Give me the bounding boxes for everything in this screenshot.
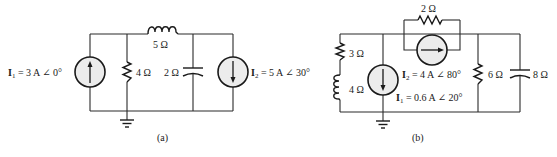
resistor-4-ohm: 4 Ω xyxy=(123,62,151,82)
circuit-diagrams: 5 Ω I1 = 3 A ∠ 0° 4 Ω 2 Ω xyxy=(0,0,557,157)
capacitor-8-ohm: 8 Ω xyxy=(510,69,548,80)
resistor-top-label: 2 Ω xyxy=(421,3,436,14)
inductor-5-ohm: 5 Ω xyxy=(148,27,178,50)
inductor-label: 5 Ω xyxy=(153,39,168,50)
caption-a: (a) xyxy=(157,132,168,144)
svg-text:I2 = 5 A ∠ 30°: I2 = 5 A ∠ 30° xyxy=(251,67,310,80)
ground-icon xyxy=(120,111,134,127)
resistor-right-label: 6 Ω xyxy=(488,69,503,80)
resistor-label: 4 Ω xyxy=(136,67,151,78)
resistor-3-ohm: 3 Ω xyxy=(336,43,364,60)
svg-text:I2 = 4 A ∠ 80°: I2 = 4 A ∠ 80° xyxy=(402,69,461,82)
current-source-i2-b: I2 = 4 A ∠ 80° xyxy=(402,35,461,82)
resistor-left-label: 3 Ω xyxy=(349,48,364,59)
current-source-i2-a: I2 = 5 A ∠ 30° xyxy=(218,57,310,87)
inductor-left-label: 4 Ω xyxy=(349,84,364,95)
current-source-i1-a: I1 = 3 A ∠ 0° xyxy=(8,57,105,87)
resistor-6-ohm: 6 Ω xyxy=(474,64,503,84)
ground-icon xyxy=(376,112,390,128)
caption-b: (b) xyxy=(412,132,424,144)
inductor-4-ohm: 4 Ω xyxy=(334,75,364,100)
svg-text:I1 = 3 A ∠ 0°: I1 = 3 A ∠ 0° xyxy=(8,67,62,80)
svg-text:I1 = 0.6 A ∠ 20°: I1 = 0.6 A ∠ 20° xyxy=(396,92,463,105)
circuit-a: 5 Ω I1 = 3 A ∠ 0° 4 Ω 2 Ω xyxy=(8,27,310,144)
capacitor-2-ohm: 2 Ω xyxy=(164,67,203,78)
capacitor-label-b: 8 Ω xyxy=(533,69,548,80)
capacitor-label: 2 Ω xyxy=(164,67,179,78)
circuit-b: 2 Ω I2 = 4 A ∠ 80° 3 Ω 4 Ω I1 = xyxy=(334,3,548,144)
resistor-2-ohm: 2 Ω xyxy=(418,3,442,24)
